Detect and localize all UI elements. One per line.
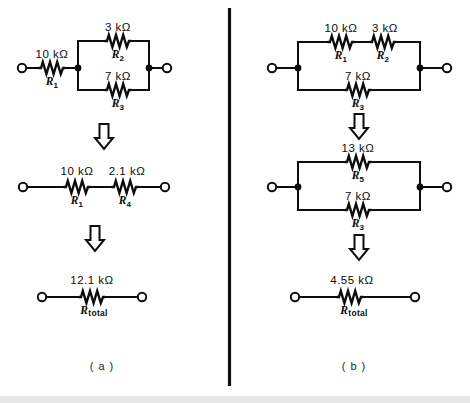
ref-label-a1-r3: R3	[112, 98, 125, 112]
ref-label-b1-r1: R1	[335, 50, 348, 64]
circuit-figure: 10 kΩ R1 3 kΩ R2 7 kΩ R3 10 kΩ R1 2.1 kΩ…	[0, 0, 470, 403]
arrow-b-1	[350, 114, 368, 139]
circuit-b-step-2	[268, 156, 451, 216]
terminal-right	[443, 183, 451, 191]
terminal-right	[161, 183, 169, 191]
ref-label-a1-r1: R1	[46, 76, 59, 90]
terminal-left	[268, 183, 276, 191]
junction-node	[295, 184, 302, 191]
arrow-a-1	[95, 124, 113, 149]
junction-node	[417, 184, 424, 191]
ref-label-b1-r3: R3	[352, 98, 365, 112]
ref-label-a3-rtotal: Rtotal	[80, 305, 107, 317]
terminal-left	[19, 183, 27, 191]
value-label-a2-r4: 2.1 kΩ	[109, 166, 146, 178]
value-label-b1-r2: 3 kΩ	[372, 23, 398, 35]
ref-label-a1-r2: R2	[112, 49, 125, 63]
value-label-a2-r1: 10 kΩ	[61, 166, 94, 178]
ref-label-b3-rtotal: Rtotal	[340, 305, 367, 317]
caption-panel-a: ( a )	[90, 361, 115, 372]
junction-node	[146, 65, 153, 72]
value-label-b2-r5: 13 kΩ	[342, 143, 375, 155]
ref-label-a2-r4: R4	[119, 195, 132, 209]
arrow-b-2	[350, 235, 368, 260]
value-label-b3-rtotal: 4.55 kΩ	[330, 275, 373, 287]
terminal-left	[18, 64, 26, 72]
junction-node	[75, 65, 82, 72]
value-label-a1-r2: 3 kΩ	[105, 22, 131, 34]
circuit-a-step-1	[18, 35, 171, 96]
value-label-a1-r3: 7 kΩ	[105, 71, 131, 83]
caption-panel-b: ( b )	[342, 361, 367, 372]
terminal-left	[268, 64, 276, 72]
circuit-a-step-2	[19, 181, 169, 193]
value-label-b2-r3: 7 kΩ	[345, 191, 371, 203]
arrow-a-2	[86, 226, 104, 251]
terminal-right	[138, 293, 146, 301]
circuit-b-step-1	[268, 36, 451, 96]
junction-node	[295, 65, 302, 72]
value-label-a1-r1: 10 kΩ	[36, 49, 69, 61]
ref-label-a2-r1: R1	[71, 195, 84, 209]
circuit-b-step-3	[291, 291, 419, 303]
terminal-right	[163, 64, 171, 72]
terminal-right	[411, 293, 419, 301]
ref-label-b2-r5: R5	[352, 170, 365, 184]
terminal-left	[38, 293, 46, 301]
terminal-left	[291, 293, 299, 301]
value-label-b1-r1: 10 kΩ	[325, 23, 358, 35]
scan-artifact	[0, 396, 470, 403]
ref-label-b1-r2: R2	[377, 50, 390, 64]
junction-node	[417, 65, 424, 72]
value-label-b1-r3: 7 kΩ	[345, 71, 371, 83]
circuit-a-step-3	[38, 291, 146, 303]
ref-label-b2-r3: R3	[352, 218, 365, 232]
terminal-right	[443, 64, 451, 72]
value-label-a3-rtotal: 12.1 kΩ	[70, 275, 113, 287]
